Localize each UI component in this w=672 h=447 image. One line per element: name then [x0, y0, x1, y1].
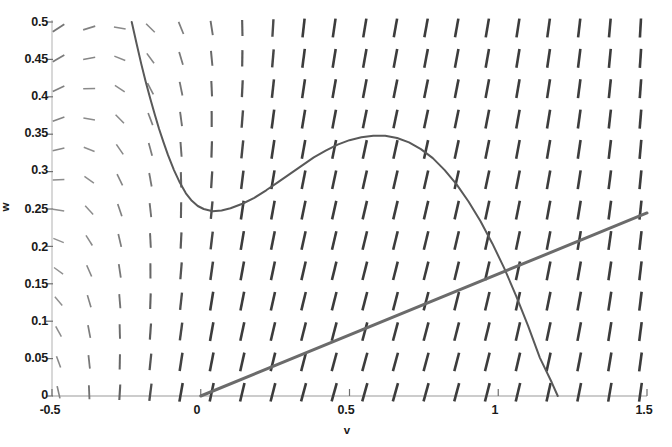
field-arrow-shaft [640, 140, 642, 159]
field-arrow [424, 110, 428, 129]
field-arrow [147, 53, 154, 63]
field-arrow [424, 322, 429, 340]
field-arrow-shaft [149, 143, 152, 156]
field-arrow-shaft [516, 170, 520, 189]
field-arrow-shaft [181, 232, 182, 248]
field-arrow-shaft [271, 322, 275, 340]
field-arrow [302, 49, 304, 68]
field-arrow [150, 323, 151, 339]
ytick-label-0.05: 0.05 [24, 351, 48, 365]
field-arrow [332, 383, 337, 401]
field-arrow-shaft [332, 110, 336, 129]
field-arrow [577, 353, 581, 372]
field-arrow [394, 49, 398, 68]
field-arrow [547, 49, 550, 68]
field-arrow-shaft [547, 49, 550, 68]
field-arrow-shaft [578, 110, 581, 129]
field-arrow-shaft [150, 323, 151, 339]
field-arrow [578, 19, 580, 38]
ytick-label-0.35: 0.35 [24, 126, 48, 140]
field-arrow [516, 231, 520, 250]
field-arrow-shaft [147, 53, 154, 63]
field-arrow [424, 383, 429, 401]
field-arrow-shaft [516, 353, 520, 372]
field-arrow [302, 170, 306, 189]
field-arrow [608, 353, 611, 372]
field-arrow [393, 383, 398, 401]
field-arrow-shaft [180, 112, 182, 126]
field-arrow-shaft [333, 49, 336, 68]
field-arrow-shaft [83, 26, 95, 30]
field-arrow-shaft [210, 322, 213, 341]
field-arrow-shaft [210, 292, 213, 311]
field-arrow-shaft [393, 292, 398, 310]
field-arrow [301, 383, 306, 401]
field-arrow-shaft [424, 49, 428, 68]
field-arrow [116, 115, 124, 123]
field-arrow [117, 174, 122, 185]
field-arrow [547, 322, 551, 341]
field-arrow-shaft [516, 201, 520, 220]
field-arrow-shaft [486, 49, 489, 68]
field-arrow [179, 22, 184, 34]
field-arrow [424, 262, 429, 280]
field-arrow [180, 353, 183, 371]
field-arrow [211, 81, 212, 96]
field-arrow [485, 140, 489, 159]
field-arrow [89, 385, 90, 399]
field-arrow-shaft [485, 201, 489, 220]
field-arrow [455, 201, 459, 220]
field-arrow-shaft [240, 353, 244, 372]
field-arrow [88, 325, 90, 338]
field-arrow [516, 140, 520, 159]
field-arrow [454, 262, 458, 280]
field-arrow [547, 231, 551, 250]
field-arrow [114, 27, 126, 29]
field-arrow [150, 293, 151, 309]
field-arrow [608, 322, 611, 341]
field-arrow [578, 201, 581, 220]
field-arrow-shaft [424, 19, 427, 38]
field-arrow [240, 292, 244, 311]
field-arrow-shaft [302, 79, 305, 98]
field-arrow-shaft [150, 354, 152, 371]
field-arrow [180, 293, 182, 310]
field-arrow-shaft [393, 171, 397, 190]
field-arrow [180, 142, 181, 157]
field-arrow-shaft [180, 142, 181, 157]
field-arrow-shaft [83, 118, 95, 120]
field-arrow [332, 140, 336, 159]
field-arrow-shaft [86, 235, 92, 245]
series-0-path [132, 22, 558, 396]
field-arrow-shaft [332, 231, 336, 249]
field-arrow-shaft [179, 22, 184, 34]
field-arrow [547, 19, 550, 38]
ytick-label-0.45: 0.45 [24, 52, 48, 66]
field-arrow-shaft [547, 140, 550, 159]
field-arrow-shaft [363, 140, 367, 159]
field-arrow [455, 49, 459, 68]
field-arrow [87, 295, 91, 307]
field-arrow-shaft [547, 201, 550, 220]
field-arrow [301, 292, 305, 310]
field-arrow [332, 262, 337, 280]
field-arrow-shaft [547, 383, 551, 402]
field-arrow [210, 292, 213, 311]
field-arrow-shaft [608, 261, 611, 280]
field-arrow [180, 323, 182, 341]
field-arrow-shaft [640, 49, 641, 68]
field-arrow [240, 353, 244, 372]
field-arrow [547, 262, 551, 281]
field-arrow [115, 85, 125, 92]
field-arrow-shaft [424, 292, 429, 310]
tick-marks [46, 22, 647, 396]
field-arrow-shaft [150, 203, 152, 217]
field-arrow-shaft [640, 79, 641, 98]
field-arrow [485, 292, 489, 310]
field-arrow [271, 231, 275, 250]
field-arrow [578, 261, 581, 280]
field-arrow-shaft [54, 267, 63, 274]
field-arrow [639, 322, 641, 341]
field-arrow [393, 292, 398, 310]
field-arrow-shaft [609, 170, 611, 189]
